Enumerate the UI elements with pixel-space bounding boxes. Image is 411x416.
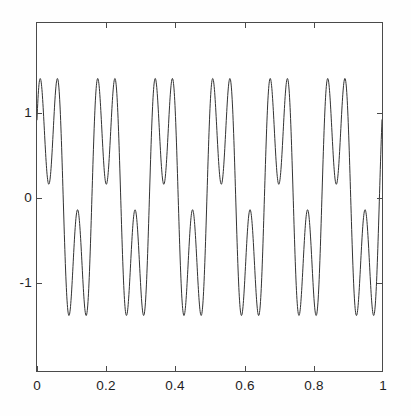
figure-canvas: 0 0.2 0.4 0.6 0.8 1 1 0 -1 xyxy=(0,0,411,416)
y-axis-tick-label-1: 0 xyxy=(14,191,32,205)
x-axis-tick-label-5: 1 xyxy=(379,379,387,393)
waveform-line xyxy=(37,78,382,315)
y-axis-tick-label-0: 1 xyxy=(14,106,32,120)
x-axis-tick-label-3: 0.6 xyxy=(235,379,254,393)
x-axis-tick-label-0: 0 xyxy=(33,379,41,393)
x-tick-mark-0 xyxy=(37,366,38,371)
y-tick-mark-1 xyxy=(37,113,42,114)
y-axis-tick-label-2: -1 xyxy=(8,276,32,290)
plot-axes-frame xyxy=(36,22,383,372)
x-tick-mark-1 xyxy=(382,366,383,371)
waveform-plot xyxy=(37,23,382,371)
x-tick-mark-top-0.4 xyxy=(175,23,176,28)
x-tick-mark-0.6 xyxy=(245,366,246,371)
y-tick-mark-0 xyxy=(37,198,42,199)
y-tick-mark-right--1 xyxy=(377,283,382,284)
x-axis-tick-label-4: 0.8 xyxy=(304,379,323,393)
x-tick-mark-top-0.6 xyxy=(245,23,246,28)
y-tick-mark-right-0 xyxy=(377,198,382,199)
x-tick-mark-top-0.8 xyxy=(314,23,315,28)
x-axis-tick-label-2: 0.4 xyxy=(165,379,184,393)
y-tick-mark-right-1 xyxy=(377,113,382,114)
x-tick-mark-0.2 xyxy=(106,366,107,371)
x-tick-mark-top-0.2 xyxy=(106,23,107,28)
x-tick-mark-0.8 xyxy=(314,366,315,371)
y-tick-mark--1 xyxy=(37,283,42,284)
x-tick-mark-0.4 xyxy=(175,366,176,371)
x-axis-tick-label-1: 0.2 xyxy=(96,379,115,393)
